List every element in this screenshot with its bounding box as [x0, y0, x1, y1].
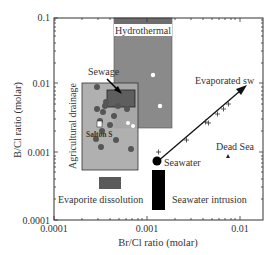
x-axis-title: Br/Cl ratio (molar) — [118, 237, 198, 249]
regions — [82, 18, 172, 210]
x-tick-0.0001: 0.0001 — [40, 223, 68, 234]
chart: 0.1 0.01 0.001 0.0001 0.0001 0.001 0.01 … — [0, 0, 276, 255]
region-seawater-intrusion — [152, 170, 165, 210]
label-seawater-intrusion: Seawater intrusion — [172, 194, 247, 205]
region-evaporite — [99, 177, 121, 189]
label-salton: Salton S — [86, 130, 112, 139]
region-hydrothermal-band — [114, 18, 172, 24]
y-tick-0.01: 0.01 — [33, 78, 51, 89]
label-evaporite: Evaporite dissolution — [58, 194, 143, 205]
label-dead-sea: Dead Sea — [216, 141, 255, 152]
label-agricultural: Agricultural drainage — [67, 83, 78, 169]
x-tick-0.01: 0.01 — [231, 223, 249, 234]
label-evaporated-sw: Evaporated sw — [195, 75, 255, 86]
y-axis-title: B/Cl ratio (molar) — [12, 82, 24, 158]
label-sewage: Sewage — [88, 66, 120, 77]
salton-sea-marker — [97, 121, 102, 127]
y-tick-0.001: 0.001 — [28, 147, 51, 158]
seawater-marker — [153, 157, 162, 166]
y-tick-0.1: 0.1 — [38, 12, 51, 23]
x-tick-0.001: 0.001 — [136, 223, 159, 234]
label-hydrothermal: Hydrothermal — [115, 25, 171, 36]
dead-sea-marker — [226, 154, 230, 158]
label-seawater: Seawater — [164, 157, 201, 168]
